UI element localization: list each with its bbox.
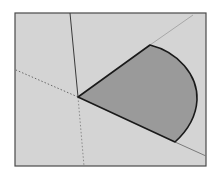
drawing-canvas	[0, 0, 220, 177]
sector-diagram	[0, 0, 220, 177]
